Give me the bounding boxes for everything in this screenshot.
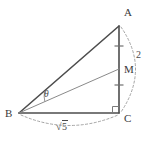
vertex-label-c: C	[124, 112, 131, 124]
length-label-bc: √5	[56, 122, 68, 132]
geometry-canvas: A B C M θ 2	[0, 0, 155, 142]
vertex-label-b: B	[5, 107, 12, 119]
angle-label-theta: θ	[44, 89, 49, 99]
vertex-label-m: M	[124, 63, 134, 75]
right-angle-marker-c	[113, 107, 120, 114]
length-label-ac: 2	[136, 49, 141, 60]
radical-sign: √5	[56, 122, 68, 132]
measure-arc-bc	[21, 115, 118, 126]
vertex-label-a: A	[124, 6, 132, 18]
geometry-figure: A B C M θ 2 √5	[0, 0, 155, 142]
segment-bm	[19, 69, 119, 113]
radicand-value: 5	[62, 120, 69, 132]
segment-ab	[19, 26, 119, 113]
